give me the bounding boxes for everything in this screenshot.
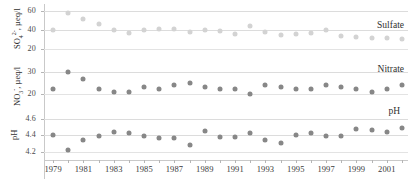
x-tick-mark: [114, 160, 115, 163]
data-point: [384, 87, 389, 92]
data-point: [233, 135, 238, 140]
data-point: [202, 28, 207, 33]
data-point: [172, 27, 177, 32]
gridline: [44, 152, 408, 153]
data-point: [202, 129, 207, 134]
data-point: [248, 24, 253, 29]
data-point: [248, 130, 253, 135]
data-point: [111, 89, 116, 94]
gridline: [44, 11, 408, 12]
data-point: [293, 87, 298, 92]
plot-area-nitrate: [44, 66, 408, 100]
x-tick-mark: [372, 160, 373, 163]
data-point: [172, 135, 177, 140]
x-tick-label: 1987: [166, 165, 183, 174]
data-point: [248, 91, 253, 96]
y-tick-mark: [41, 152, 44, 153]
x-tick-mark: [220, 160, 221, 163]
data-point: [172, 83, 177, 88]
x-tick-mark: [53, 160, 54, 163]
data-point: [263, 29, 268, 34]
data-point: [369, 89, 374, 94]
data-point: [187, 81, 192, 86]
data-point: [308, 87, 313, 92]
x-axis: 1979198119831985198719891991199319951997…: [0, 160, 414, 179]
data-point: [51, 87, 56, 92]
data-point: [157, 135, 162, 140]
data-point: [324, 134, 329, 139]
data-point: [233, 31, 238, 36]
data-point: [324, 83, 329, 88]
data-point: [308, 30, 313, 35]
x-tick-mark: [265, 160, 266, 163]
data-point: [354, 87, 359, 92]
x-tick-mark: [356, 160, 357, 163]
plot-area-sulfate: [44, 4, 408, 58]
x-tick-label: 1989: [196, 165, 213, 174]
data-point: [51, 132, 56, 137]
data-point: [66, 147, 71, 152]
x-tick-label: 1993: [257, 165, 274, 174]
data-point: [399, 125, 404, 130]
x-tick-mark: [144, 160, 145, 163]
data-point: [369, 35, 374, 40]
gridline: [44, 119, 408, 120]
data-point: [142, 134, 147, 139]
x-tick-mark: [68, 160, 69, 163]
data-point: [369, 127, 374, 132]
data-point: [278, 85, 283, 90]
data-point: [96, 87, 101, 92]
data-point: [66, 70, 71, 75]
x-tick-mark: [296, 160, 297, 163]
gridline: [44, 72, 408, 73]
y-tick-label: 4.6: [0, 115, 40, 123]
x-tick-mark: [281, 160, 282, 163]
series-label-nitrate: Nitrate: [378, 64, 404, 74]
data-point: [81, 76, 86, 81]
data-point: [217, 135, 222, 140]
x-tick-label: 1997: [317, 165, 334, 174]
x-tick-mark: [190, 160, 191, 163]
data-point: [157, 27, 162, 32]
y-tick-label: 60: [0, 7, 40, 15]
x-tick-mark: [83, 160, 84, 163]
data-point: [339, 85, 344, 90]
y-tick-mark: [41, 11, 44, 12]
data-point: [384, 36, 389, 41]
data-point: [96, 134, 101, 139]
data-point: [96, 21, 101, 26]
data-point: [111, 130, 116, 135]
y-tick-mark: [41, 94, 44, 95]
data-point: [126, 30, 131, 35]
data-point: [126, 89, 131, 94]
y-tick-label: 20: [0, 45, 40, 53]
panel-nitrate: [44, 66, 408, 100]
y-tick-label: 20: [0, 90, 40, 98]
x-tick-mark: [311, 160, 312, 163]
y-tick-label: 30: [0, 68, 40, 76]
panel-sulfate: [44, 4, 408, 58]
x-tick-mark: [129, 160, 130, 163]
data-point: [384, 130, 389, 135]
data-point: [81, 137, 86, 142]
x-tick-label: 2001: [378, 165, 395, 174]
y-tick-label: 4.4: [0, 131, 40, 139]
gridline: [44, 94, 408, 95]
panel-ph: [44, 112, 408, 158]
data-point: [263, 83, 268, 88]
data-point: [187, 29, 192, 34]
data-point: [293, 31, 298, 36]
x-tick-mark: [326, 160, 327, 163]
data-point: [339, 33, 344, 38]
data-point: [202, 85, 207, 90]
x-tick-mark: [99, 160, 100, 163]
x-tick-label: 1985: [135, 165, 152, 174]
x-tick-mark: [174, 160, 175, 163]
x-tick-label: 1983: [105, 165, 122, 174]
gridline: [44, 49, 408, 50]
y-tick-mark: [41, 72, 44, 73]
data-point: [399, 37, 404, 42]
plot-area-ph: [44, 112, 408, 158]
data-point: [399, 83, 404, 88]
x-tick-label: 1999: [348, 165, 365, 174]
